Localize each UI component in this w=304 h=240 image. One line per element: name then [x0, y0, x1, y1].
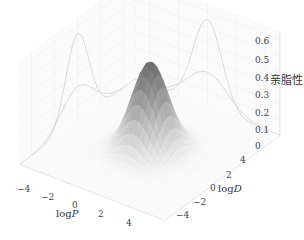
y-tick: 4	[240, 155, 246, 165]
z-tick: 0.2	[255, 108, 269, 118]
z-tick: 0.6	[255, 36, 269, 46]
y-tick: −2	[193, 197, 206, 207]
x-tick: −2	[41, 192, 54, 202]
y-tick: 2	[226, 170, 232, 180]
z-tick: 0.4	[255, 73, 269, 83]
z-tick: 0.5	[255, 55, 269, 65]
x-axis-label-var: P	[72, 208, 79, 219]
y-tick: 0	[210, 183, 216, 193]
x-axis-label-log: log	[56, 208, 72, 219]
y-axis-label-log: log	[218, 183, 234, 194]
x-tick: 4	[126, 218, 132, 228]
x-tick: 2	[98, 209, 104, 219]
y-tick: −4	[176, 210, 189, 220]
y-axis-label-var: D	[234, 183, 242, 194]
x-tick: −4	[17, 184, 30, 194]
x-axis-label: logP	[56, 208, 78, 219]
z-axis-label: 亲脂性	[270, 71, 303, 87]
y-axis-label: logD	[218, 183, 242, 194]
z-tick: 0	[255, 141, 261, 151]
z-tick: 0.1	[255, 125, 269, 135]
z-tick: 0.3	[255, 90, 269, 100]
